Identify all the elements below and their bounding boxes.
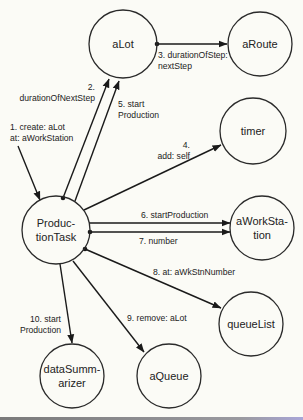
node-circle <box>22 196 90 264</box>
edge-e3 <box>155 42 227 47</box>
edge-label-e5: 5. startProduction <box>118 99 159 120</box>
message-label: 4. <box>183 140 190 150</box>
edge-e8 <box>83 247 221 308</box>
message-label: 3. durationOfStep: <box>158 50 228 60</box>
node-label: aRoute <box>242 38 277 50</box>
edge-e10 <box>60 264 72 343</box>
message-label: 10. start <box>30 314 62 324</box>
node-label: tion <box>253 229 271 241</box>
message-label: 6. startProduction <box>141 210 209 220</box>
node-label: arizer <box>58 377 86 389</box>
message-label: at: aWorkStation <box>10 133 74 143</box>
edge-label-e1: 1. create: aLotat: aWorkStation <box>10 122 74 143</box>
message-label: 5. start <box>118 99 145 109</box>
node-circle <box>230 196 294 260</box>
message-label: 2. <box>88 82 95 92</box>
node-queueList: queueList <box>219 292 283 356</box>
message-label: 1. create: aLot <box>10 122 66 132</box>
node-aRoute: aRoute <box>228 12 292 76</box>
edge-label-e7: 7. number <box>139 236 178 246</box>
message-label: 9. remove: aLot <box>127 313 187 323</box>
message-label: 7. number <box>139 236 178 246</box>
edge-e7 <box>88 230 230 235</box>
node-label: tionTask <box>36 231 77 243</box>
node-aLot: aLot <box>89 10 157 78</box>
node-label: queueList <box>227 318 275 330</box>
node-label: aQueue <box>149 370 188 382</box>
arrow-line <box>73 261 144 352</box>
arrow-line <box>60 264 72 343</box>
message-label: add: self <box>158 151 191 161</box>
node-timer: timer <box>220 98 286 164</box>
edge-label-e8: 8. at: aWkStnNumber <box>153 267 235 277</box>
message-label: durationOfNextStep <box>20 93 96 103</box>
edge-label-e6: 6. startProduction <box>141 210 209 220</box>
node-label: dataSumm- <box>44 363 101 375</box>
edge-e1 <box>18 146 40 200</box>
message-label: 8. at: aWkStnNumber <box>153 267 235 277</box>
edge-e4 <box>84 145 221 210</box>
edge-label-e9: 9. remove: aLot <box>127 313 187 323</box>
arrow-line <box>84 145 221 210</box>
arrow-line <box>85 249 221 308</box>
node-label: timer <box>241 125 266 137</box>
node-label: aWorkSta- <box>236 215 288 227</box>
collaboration-diagram: aLotaRoutetimerProduc-tionTaskaWorkSta-t… <box>0 0 303 420</box>
node-label: Produc- <box>37 217 76 229</box>
edge-label-e2: 2.durationOfNextStep <box>20 82 96 103</box>
node-dataSummarizer: dataSumm-arizer <box>40 344 104 408</box>
edge-label-e10: 10. startProduction <box>20 314 62 335</box>
edge-label-e3: 3. durationOfStep:nextStep <box>158 50 228 71</box>
node-label: aLot <box>112 38 133 50</box>
node-aQueue: aQueue <box>137 344 201 408</box>
node-aWorkStation: aWorkSta-tion <box>230 196 294 260</box>
edge-e9 <box>73 261 144 352</box>
message-label: Production <box>118 110 159 120</box>
message-label: Production <box>20 325 61 335</box>
node-circle <box>40 344 104 408</box>
node-ProductionTask: Produc-tionTask <box>22 196 90 264</box>
arrow-line <box>18 146 40 200</box>
message-label: nextStep <box>158 61 192 71</box>
edge-label-e4: 4.add: self <box>158 140 191 161</box>
